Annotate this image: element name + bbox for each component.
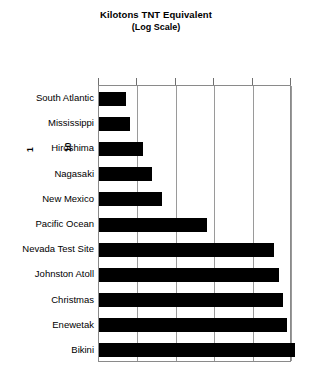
plot-area xyxy=(98,85,291,362)
category-label: Christmas xyxy=(4,294,98,305)
category-label: Nagasaki xyxy=(4,168,98,179)
category-label: Bikini xyxy=(4,344,98,355)
bar xyxy=(99,142,143,156)
category-label: New Mexico xyxy=(4,193,98,204)
tick-mark-1000 xyxy=(213,78,214,85)
category-label: Pacific Ocean xyxy=(4,218,98,229)
chart-title: Kilotons TNT Equivalent xyxy=(0,9,312,21)
category-label: South Atlantic xyxy=(4,92,98,103)
tick-mark-100000 xyxy=(290,78,291,85)
bar xyxy=(99,293,283,307)
tick-mark-100 xyxy=(175,78,176,85)
bar xyxy=(99,92,126,106)
tick-mark-1 xyxy=(98,78,99,85)
bar xyxy=(99,192,162,206)
y-axis-category-labels: South AtlanticMississippiHiroshimaNagasa… xyxy=(0,85,98,362)
bar xyxy=(99,243,274,257)
tick-mark-10000 xyxy=(252,78,253,85)
tick-mark-10 xyxy=(136,78,137,85)
category-label: Hiroshima xyxy=(4,142,98,153)
bar xyxy=(99,268,279,282)
bar xyxy=(99,218,207,232)
chart-subtitle: (Log Scale) xyxy=(0,21,312,33)
bar-chart: Kilotons TNT Equivalent (Log Scale) 1101… xyxy=(0,0,312,375)
bar xyxy=(99,318,287,332)
category-label: Mississippi xyxy=(4,117,98,128)
gridline-100000 xyxy=(291,86,292,361)
category-label: Johnston Atoll xyxy=(4,268,98,279)
bar xyxy=(99,167,152,181)
category-label: Nevada Test Site xyxy=(4,243,98,254)
bar xyxy=(99,117,130,131)
category-label: Enewetak xyxy=(4,319,98,330)
bar xyxy=(99,343,295,357)
